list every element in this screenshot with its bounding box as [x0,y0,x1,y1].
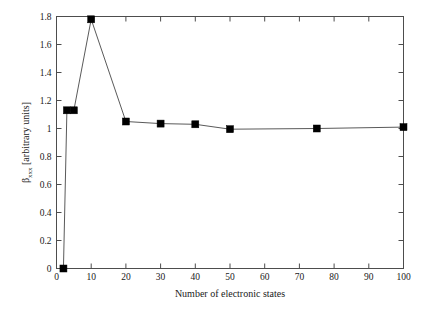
chart-figure: 010203040506070809010000.20.40.60.811.21… [0,0,429,312]
x-tick-label: 30 [156,272,166,282]
data-point-marker [88,16,95,23]
y-tick-label: 0.8 [40,152,52,162]
data-point-marker [70,107,77,114]
data-point-marker [122,118,129,125]
y-tick-label: 1 [47,124,52,134]
x-tick-label: 10 [86,272,96,282]
data-point-marker [313,125,320,132]
data-point-marker [400,124,407,131]
data-point-marker [60,265,67,272]
line-chart: 010203040506070809010000.20.40.60.811.21… [0,0,429,312]
plot-frame [57,17,404,269]
svg-text:βxxx [arbitrary units]: βxxx [arbitrary units] [20,102,34,183]
data-point-marker [227,126,234,133]
x-tick-label: 50 [225,272,235,282]
y-axis-title: βxxx [arbitrary units] [20,102,34,183]
x-tick-label: 70 [295,272,305,282]
x-axis-title: Number of electronic states [175,288,285,299]
y-tick-label: 0.4 [40,208,52,218]
x-tick-label: 100 [396,272,411,282]
series-line [63,19,403,268]
y-tick-label: 1.4 [40,68,52,78]
x-tick-label: 90 [364,272,374,282]
x-tick-label: 20 [121,272,131,282]
y-tick-label: 1.8 [40,12,52,22]
x-tick-label: 0 [54,272,59,282]
x-tick-label: 60 [260,272,270,282]
data-point-marker [192,121,199,128]
x-tick-label: 40 [191,272,201,282]
y-tick-label: 1.2 [40,96,52,106]
y-tick-label: 0.6 [40,180,52,190]
data-point-marker [63,107,70,114]
y-tick-label: 0 [47,264,52,274]
y-tick-label: 0.2 [40,236,52,246]
x-tick-label: 80 [329,272,339,282]
data-point-marker [157,120,164,127]
y-tick-label: 1.6 [40,40,52,50]
